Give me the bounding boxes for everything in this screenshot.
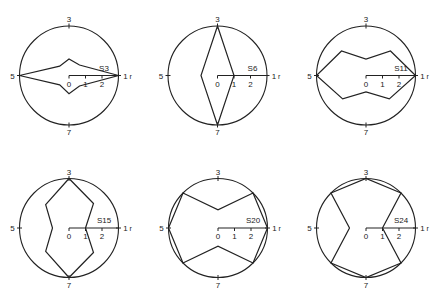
radial-axis-label: r — [427, 225, 430, 232]
radial-tick-label: 1 — [232, 232, 237, 241]
radial-axis-label: r — [130, 73, 133, 80]
radar-plot-s3: 1357012rS3 — [10, 15, 132, 137]
series-label: S24 — [394, 216, 409, 225]
direction-label: 7 — [215, 128, 220, 137]
radial-tick-label: 2 — [397, 80, 402, 89]
series-label: S11 — [394, 64, 408, 73]
direction-label: 5 — [159, 224, 164, 233]
radial-tick-label: 0 — [216, 232, 221, 241]
direction-label: 1 — [420, 72, 425, 81]
radial-tick-label: 2 — [249, 232, 254, 241]
direction-label: 7 — [67, 281, 72, 290]
radar-plot-s24: 1357012rS24 — [307, 168, 429, 290]
series-label: S20 — [246, 216, 261, 225]
radial-axis-label: r — [278, 73, 281, 80]
radar-plot-s6: 1357012rS6 — [159, 15, 281, 137]
direction-label: 7 — [216, 281, 221, 290]
radial-axis-label: r — [279, 225, 282, 232]
direction-label: 5 — [10, 72, 15, 81]
radar-plot-s20: 1357012rS20 — [159, 168, 281, 290]
series-label: S15 — [97, 216, 112, 225]
radial-tick-label: 0 — [364, 80, 369, 89]
direction-label: 1 — [420, 224, 425, 233]
radar-plot-s15: 1357012rS15 — [10, 168, 132, 290]
direction-label: 1 — [272, 224, 277, 233]
radial-tick-label: 0 — [364, 232, 369, 241]
direction-label: 1 — [123, 72, 128, 81]
direction-label: 3 — [67, 168, 72, 177]
series-label: S3 — [99, 64, 109, 73]
radial-tick-label: 2 — [100, 232, 105, 241]
chart-canvas: 1357012rS31357012rS61357012rS111357012rS… — [0, 0, 445, 296]
radar-polygon — [317, 51, 416, 99]
direction-label: 3 — [364, 15, 369, 24]
radial-axis-label: r — [427, 73, 430, 80]
direction-label: 1 — [272, 72, 277, 81]
direction-label: 3 — [364, 168, 369, 177]
radar-chart-grid: 1357012rS31357012rS61357012rS111357012rS… — [0, 0, 445, 296]
series-label: S6 — [248, 64, 258, 73]
direction-label: 1 — [123, 224, 128, 233]
radial-tick-label: 1 — [380, 232, 385, 241]
radial-tick-label: 2 — [248, 80, 253, 89]
direction-label: 7 — [364, 281, 369, 290]
radial-tick-label: 0 — [67, 80, 72, 89]
direction-label: 5 — [307, 72, 312, 81]
direction-label: 3 — [67, 15, 72, 24]
radial-tick-label: 1 — [380, 80, 385, 89]
direction-label: 3 — [215, 15, 220, 24]
direction-label: 5 — [10, 224, 15, 233]
direction-label: 3 — [216, 168, 221, 177]
radial-tick-label: 0 — [67, 232, 72, 241]
direction-label: 7 — [67, 128, 72, 137]
direction-label: 5 — [307, 224, 312, 233]
radar-plot-s11: 1357012rS11 — [307, 15, 429, 137]
radial-tick-label: 2 — [397, 232, 402, 241]
direction-label: 5 — [159, 72, 164, 81]
radial-tick-label: 0 — [215, 80, 220, 89]
direction-label: 7 — [364, 128, 369, 137]
radial-axis-label: r — [130, 225, 133, 232]
